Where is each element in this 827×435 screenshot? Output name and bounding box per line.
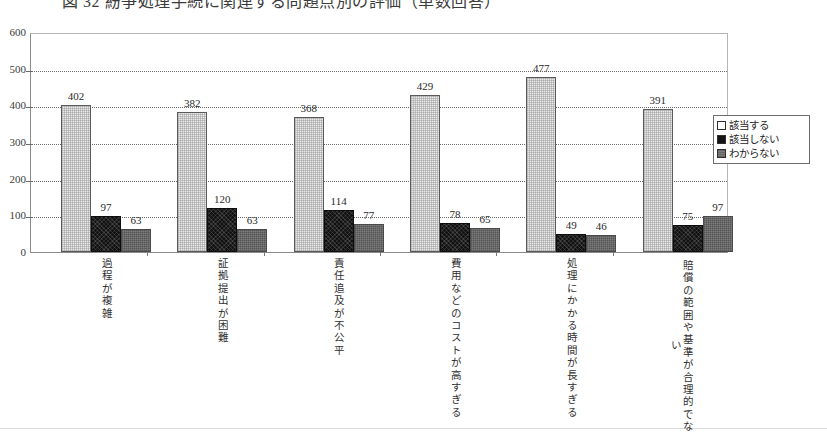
x-tick [613, 252, 614, 256]
bar-value-label: 63 [112, 215, 160, 226]
y-tick-400 [26, 107, 31, 108]
bar [643, 109, 673, 252]
y-axis-label-500: 500 [2, 64, 26, 75]
bar-value-label: 477 [517, 63, 565, 74]
legend-label: わからない [729, 148, 779, 159]
y-axis-label-400: 400 [2, 100, 26, 111]
bar-value-label: 97 [694, 202, 742, 213]
legend-swatch-icon [717, 135, 726, 144]
bar-value-label: 77 [345, 210, 393, 221]
bar-group: 38212063 [177, 34, 267, 252]
bar-value-label: 402 [52, 91, 100, 102]
bar-value-label: 97 [82, 202, 130, 213]
legend-swatch-icon [717, 121, 726, 130]
bar-group: 36811477 [294, 34, 384, 252]
bar [703, 216, 733, 252]
bar [294, 117, 324, 252]
bar [177, 112, 207, 252]
bar-group: 4029763 [61, 34, 151, 252]
x-axis-category-label: 費用などのコストが高すぎる [447, 258, 461, 419]
legend-item: 該当しない [717, 132, 806, 146]
bar [61, 105, 91, 252]
y-axis-label-600: 600 [2, 27, 26, 38]
x-tick [496, 252, 497, 256]
bar [556, 234, 586, 252]
bar-value-label: 65 [461, 214, 509, 225]
bar-value-label: 63 [228, 215, 276, 226]
y-axis-label-200: 200 [2, 174, 26, 185]
legend-item: わからない [717, 146, 806, 160]
y-tick-300 [26, 144, 31, 145]
x-axis-category-label: 処理にかかる時間が長すぎる [563, 258, 577, 419]
y-tick-100 [26, 217, 31, 218]
bar-value-label: 368 [285, 103, 333, 114]
page-bottom-rule [0, 428, 827, 429]
bar-group: 4774946 [526, 34, 616, 252]
bar [440, 223, 470, 252]
bar [410, 95, 440, 252]
x-tick [380, 252, 381, 256]
bar [354, 224, 384, 252]
plot-area: 4029763382120633681147742978654774946391… [30, 33, 728, 253]
bar-value-label: 46 [577, 221, 625, 232]
x-axis-category-label: 過程が複雑 [98, 258, 112, 320]
y-tick-500 [26, 71, 31, 72]
y-axis-labels: 0100200300400500600 [0, 33, 26, 253]
y-axis-label-100: 100 [2, 210, 26, 221]
x-axis-category-label: 賠償の範囲や基準が合理的でない [680, 258, 694, 435]
bar-value-label: 382 [168, 98, 216, 109]
bar-chart: 0100200300400500600 40297633821206336811… [0, 0, 827, 435]
bar [237, 229, 267, 252]
x-axis-category-label: 証拠提出が困難 [214, 258, 228, 345]
x-axis-category-label: 責任追及が不公平 [331, 258, 345, 357]
y-tick-200 [26, 181, 31, 182]
y-axis-label-0: 0 [2, 247, 26, 258]
bar [121, 229, 151, 252]
bar [586, 235, 616, 252]
chart-legend: 該当する該当しないわからない [713, 115, 810, 164]
bar-value-label: 120 [198, 194, 246, 205]
legend-swatch-icon [717, 149, 726, 158]
legend-label: 該当しない [729, 134, 779, 145]
x-tick [264, 252, 265, 256]
bar [673, 225, 703, 253]
bar-value-label: 429 [401, 81, 449, 92]
bar-value-label: 391 [634, 95, 682, 106]
bar [470, 228, 500, 252]
legend-item: 該当する [717, 118, 806, 132]
legend-label: 該当する [729, 120, 769, 131]
plot-inner: 4029763382120633681147742978654774946391… [31, 34, 727, 252]
bar-group: 4297865 [410, 34, 500, 252]
bar-value-label: 114 [315, 196, 363, 207]
x-tick [147, 252, 148, 256]
y-axis-label-300: 300 [2, 137, 26, 148]
